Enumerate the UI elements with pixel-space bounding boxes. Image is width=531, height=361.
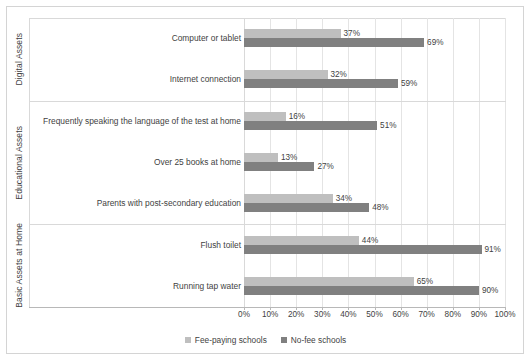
- bar-value-label: 13%: [281, 153, 297, 162]
- group-separator: [29, 224, 506, 225]
- group-label-2: Educational Assets: [10, 101, 28, 225]
- group-label-text: Basic Assets at Home: [15, 223, 24, 308]
- x-axis-tick-label: 50%: [366, 311, 382, 319]
- bar-value-label: 59%: [401, 79, 417, 88]
- group-separator: [29, 101, 506, 102]
- bar-value-label: 48%: [372, 203, 388, 212]
- category-label: Parents with post-secondary education: [97, 199, 241, 207]
- bar-value-label: 91%: [485, 245, 501, 254]
- x-axis-tick-label: 80%: [445, 311, 461, 319]
- bar-value-label: 32%: [331, 70, 347, 79]
- legend-item-2[interactable]: No-fee schools: [281, 336, 346, 344]
- x-axis-tick-label: 30%: [314, 311, 330, 319]
- category-label: Flush toilet: [201, 241, 242, 249]
- bar: [244, 194, 333, 203]
- category-label: Internet connection: [170, 75, 241, 83]
- x-axis-tick-label: 20%: [288, 311, 304, 319]
- bar: [244, 203, 369, 212]
- gridline: [453, 18, 454, 307]
- x-axis-tick-label: 90%: [471, 311, 487, 319]
- bar-value-label: 51%: [380, 121, 396, 130]
- bar: [244, 79, 398, 88]
- x-axis-tick-label: 0%: [238, 311, 250, 319]
- x-axis-tick-label: 10%: [262, 311, 278, 319]
- gridline: [479, 18, 480, 307]
- group-axis: Digital AssetsEducational AssetsBasic As…: [10, 18, 28, 307]
- bar-value-label: 44%: [362, 236, 378, 245]
- bar: [244, 70, 328, 79]
- category-labels: Computer or tabletInternet connectionFre…: [30, 18, 243, 307]
- bar-value-label: 16%: [289, 112, 305, 121]
- legend-swatch-icon: [185, 337, 191, 343]
- bar-value-label: 37%: [344, 29, 360, 38]
- bar: [244, 286, 479, 295]
- bar: [244, 162, 314, 171]
- bar: [244, 236, 359, 245]
- bar: [244, 29, 341, 38]
- gridline: [401, 18, 402, 307]
- legend-swatch-icon: [281, 337, 287, 343]
- bar-value-label: 69%: [427, 38, 443, 47]
- category-label: Running tap water: [173, 282, 241, 290]
- bar: [244, 245, 482, 254]
- chart-container: Digital AssetsEducational AssetsBasic As…: [0, 0, 531, 361]
- bars-area: 37%69%32%59%16%51%13%27%34%48%44%91%65%9…: [244, 18, 505, 307]
- gridline: [505, 18, 506, 307]
- legend-item-1[interactable]: Fee-paying schools: [185, 336, 267, 344]
- x-axis-tick-label: 40%: [340, 311, 356, 319]
- legend-label: Fee-paying schools: [195, 336, 267, 344]
- x-axis-tick-label: 60%: [392, 311, 408, 319]
- bar: [244, 38, 424, 47]
- bar-value-label: 27%: [317, 162, 333, 171]
- chart-legend: Fee-paying schoolsNo-fee schools: [0, 336, 531, 344]
- group-label-text: Educational Assets: [15, 126, 24, 200]
- bar: [244, 153, 278, 162]
- x-axis-tick-label: 100%: [495, 311, 516, 319]
- x-axis-tick-label: 70%: [418, 311, 434, 319]
- group-label-text: Digital Assets: [15, 33, 24, 85]
- gridline: [375, 18, 376, 307]
- category-label: Computer or tablet: [172, 34, 241, 42]
- bar-value-label: 90%: [482, 286, 498, 295]
- legend-label: No-fee schools: [291, 336, 346, 344]
- category-label: Frequently speaking the language of the …: [43, 117, 241, 125]
- bar: [244, 277, 414, 286]
- gridline: [427, 18, 428, 307]
- x-axis-line: [29, 307, 506, 308]
- gridline: [348, 18, 349, 307]
- bar: [244, 121, 377, 130]
- group-label-1: Digital Assets: [10, 18, 28, 101]
- bar-value-label: 34%: [336, 194, 352, 203]
- group-label-3: Basic Assets at Home: [10, 224, 28, 307]
- category-label: Over 25 books at home: [154, 158, 241, 166]
- bar-value-label: 65%: [417, 277, 433, 286]
- bar: [244, 112, 286, 121]
